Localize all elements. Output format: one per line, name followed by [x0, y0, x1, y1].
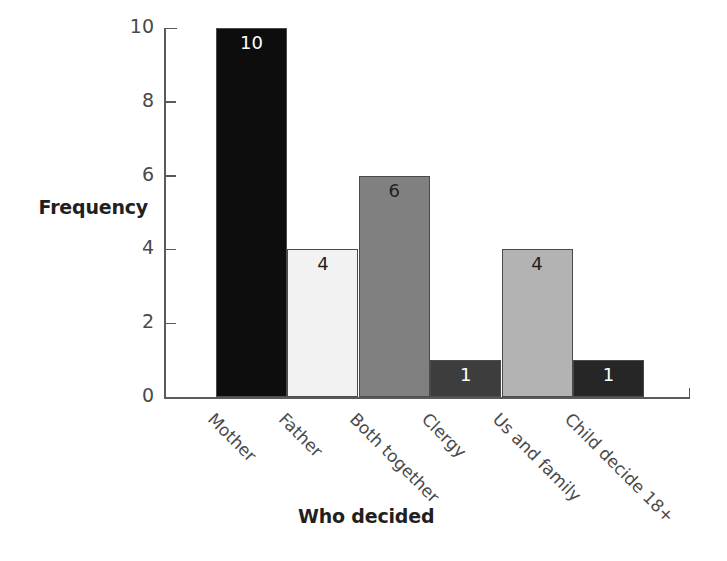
bar: 4	[502, 249, 573, 397]
bar: 1	[430, 360, 501, 397]
y-axis-tick-label: 2	[116, 310, 154, 332]
x-axis-tick-label: Child decide 18+	[560, 409, 677, 526]
y-axis-tick-label: 4	[116, 236, 154, 258]
x-axis-end-tick	[689, 388, 691, 398]
bar-value-label: 1	[574, 365, 643, 385]
bar: 4	[287, 249, 358, 397]
y-axis-title: Frequency	[8, 196, 148, 218]
x-axis-title: Who decided	[298, 505, 434, 527]
y-axis-tick-mark	[164, 175, 176, 177]
x-axis-spine	[164, 397, 690, 399]
y-axis-tick-label: 8	[116, 89, 154, 111]
y-axis-tick-mark	[164, 323, 176, 325]
bar: 6	[359, 176, 430, 397]
y-axis-tick-mark	[164, 101, 176, 103]
y-axis-spine	[164, 28, 166, 399]
x-axis-tick-label: Clergy	[418, 409, 471, 462]
bar: 1	[573, 360, 644, 397]
x-axis-tick-label: Mother	[203, 409, 260, 466]
y-axis-tick-label: 6	[116, 163, 154, 185]
bar-value-label: 4	[503, 254, 572, 274]
bar: 10	[216, 28, 287, 397]
y-axis-tick-mark	[164, 249, 176, 251]
y-axis-tick-label: 0	[116, 384, 154, 406]
x-axis-tick-label: Father	[275, 409, 327, 461]
bar-value-label: 6	[360, 181, 429, 201]
bar-chart: Frequency 0246810 1046141 MotherFatherBo…	[0, 0, 727, 561]
bar-value-label: 1	[431, 365, 500, 385]
y-axis-tick-label: 10	[116, 15, 154, 37]
y-axis-tick-mark	[164, 28, 177, 30]
bar-value-label: 4	[288, 254, 357, 274]
bar-value-label: 10	[217, 33, 286, 53]
